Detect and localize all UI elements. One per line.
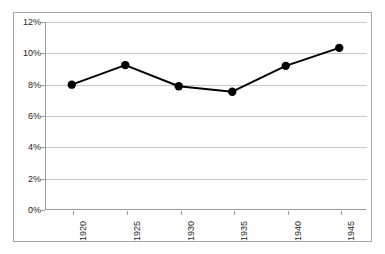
x-axis-labels: 1920 1925 1930 1935 1940 1945 — [0, 0, 385, 254]
x-axis-label-1930: 1930 — [186, 221, 196, 241]
x-axis-label-1920: 1920 — [78, 221, 88, 241]
x-axis-label-1945: 1945 — [346, 221, 356, 241]
x-axis-label-1925: 1925 — [132, 221, 142, 241]
chart-container: 12% 10% 8% 6% 4% 2% 0% 1920 1925 1930 19… — [0, 0, 385, 254]
x-axis-label-1940: 1940 — [293, 221, 303, 241]
x-axis-label-1935: 1935 — [239, 221, 249, 241]
